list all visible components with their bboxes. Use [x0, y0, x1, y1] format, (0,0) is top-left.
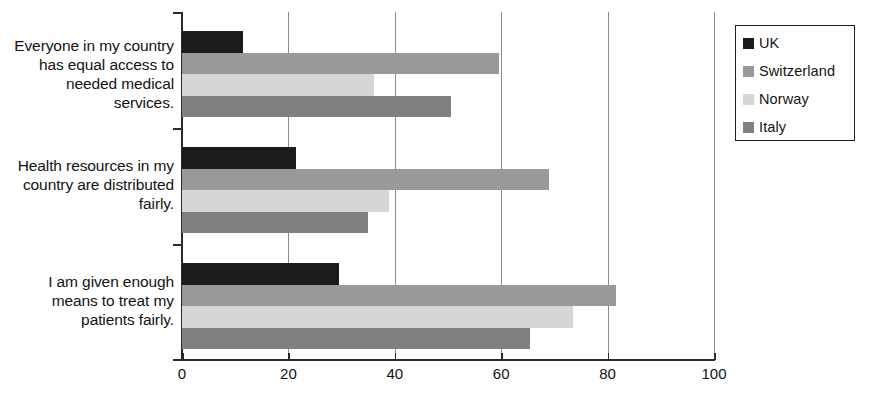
bar-chart: Everyone in my country has equal access … [0, 0, 873, 409]
plot-area [182, 12, 714, 360]
bar-norway-group-0 [182, 74, 374, 96]
bar-italy-group-1 [182, 212, 368, 234]
category-label-0: Everyone in my country has equal access … [6, 36, 174, 112]
legend-item-norway[interactable]: Norway [743, 91, 809, 107]
x-tick-80 [608, 353, 610, 360]
bar-uk-group-2 [182, 263, 339, 285]
x-tick-20 [288, 353, 290, 360]
bar-norway-group-1 [182, 190, 389, 212]
legend-swatch-italy-icon [743, 122, 754, 133]
x-tick-label-100: 100 [701, 365, 726, 382]
gridline-100 [714, 12, 715, 360]
legend-label: Norway [759, 91, 809, 107]
x-tick-label-60: 60 [493, 365, 510, 382]
legend-item-switzerland[interactable]: Switzerland [743, 63, 835, 79]
legend: UKSwitzerlandNorwayItaly [735, 25, 855, 141]
gridline-80 [608, 12, 609, 360]
legend-label: Italy [759, 119, 786, 135]
bar-switzerland-group-0 [182, 53, 499, 75]
bar-norway-group-2 [182, 306, 573, 328]
x-tick-label-40: 40 [386, 365, 403, 382]
x-tick-label-20: 20 [280, 365, 297, 382]
legend-swatch-switzerland-icon [743, 66, 754, 77]
legend-swatch-norway-icon [743, 94, 754, 105]
category-label-1: Health resources in my country are distr… [6, 156, 174, 213]
x-tick-0 [182, 353, 184, 360]
bar-italy-group-2 [182, 328, 530, 350]
legend-label: Switzerland [759, 63, 835, 79]
bar-italy-group-0 [182, 96, 451, 118]
y-axis-tick [173, 12, 182, 14]
y-axis-tick [173, 359, 182, 361]
bar-switzerland-group-1 [182, 169, 549, 191]
y-axis-tick [173, 244, 182, 246]
bar-uk-group-0 [182, 31, 243, 53]
x-tick-100 [714, 353, 716, 360]
y-axis-tick [173, 128, 182, 130]
legend-item-italy[interactable]: Italy [743, 119, 786, 135]
x-tick-label-0: 0 [178, 365, 186, 382]
legend-label: UK [759, 35, 779, 51]
x-tick-40 [395, 353, 397, 360]
category-label-2: I am given enough means to treat my pati… [6, 272, 174, 329]
bar-uk-group-1 [182, 147, 296, 169]
bar-switzerland-group-2 [182, 285, 616, 307]
x-tick-60 [501, 353, 503, 360]
legend-swatch-uk-icon [743, 38, 754, 49]
legend-item-uk[interactable]: UK [743, 35, 779, 51]
x-tick-label-80: 80 [599, 365, 616, 382]
